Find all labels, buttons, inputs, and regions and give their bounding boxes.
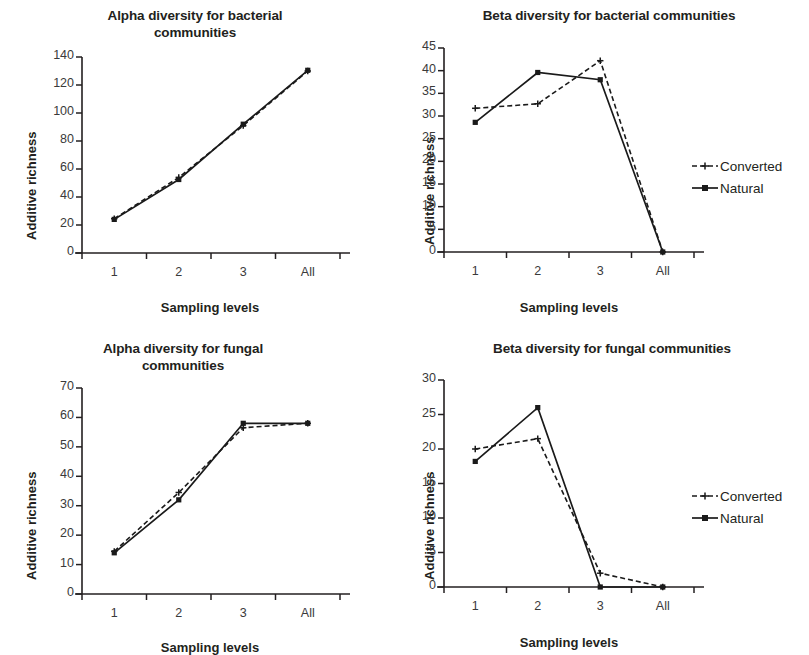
y-tick-label: 60	[22, 408, 74, 422]
data-point-marker-natural	[112, 217, 117, 222]
legend-beta-fungal: Converted Natural	[692, 485, 782, 529]
y-tick-label: 10	[384, 198, 436, 212]
y-tick-label: 25	[384, 130, 436, 144]
data-point-marker-natural	[535, 405, 540, 410]
legend-item-natural: Natural	[692, 177, 782, 199]
y-tick-label: 60	[22, 160, 74, 174]
y-tick-label: 20	[22, 216, 74, 230]
x-tick-label: 3	[213, 606, 273, 620]
chart-panel-beta-fungal: Beta diversity for fungal communities Ad…	[404, 330, 809, 651]
x-tick-label: 3	[213, 265, 273, 279]
x-tick-label: 2	[149, 606, 209, 620]
y-tick-label: 50	[22, 438, 74, 452]
x-tick-label: 1	[445, 264, 505, 278]
y-tick-label: 40	[22, 188, 74, 202]
y-tick-label: 35	[384, 84, 436, 98]
legend-swatch-natural-icon	[692, 182, 718, 194]
y-tick-label: 20	[384, 440, 436, 454]
y-tick-label: 5	[384, 220, 436, 234]
data-point-marker-converted	[472, 446, 478, 452]
y-tick-label: 20	[22, 526, 74, 540]
y-tick-label: 0	[384, 243, 436, 257]
data-point-marker-natural	[176, 177, 181, 182]
x-tick-label: 1	[84, 265, 144, 279]
y-tick-label: 30	[22, 497, 74, 511]
y-tick-label: 100	[22, 104, 74, 118]
data-point-marker-natural	[660, 249, 665, 254]
legend-swatch-converted-icon	[692, 160, 718, 172]
legend-beta-bacterial: Converted Natural	[692, 155, 782, 199]
y-tick-label: 5	[384, 544, 436, 558]
y-tick-label: 30	[384, 107, 436, 121]
data-point-marker-natural	[598, 77, 603, 82]
x-tick-label: 2	[508, 599, 568, 613]
y-tick-label: 0	[22, 244, 74, 258]
series-line-converted	[475, 61, 663, 252]
y-tick-label: 25	[384, 406, 436, 420]
series-line-converted	[475, 439, 663, 587]
y-tick-label: 15	[384, 475, 436, 489]
data-point-marker-natural	[473, 120, 478, 125]
data-point-marker-natural	[112, 550, 117, 555]
y-tick-label: 15	[384, 175, 436, 189]
y-tick-label: 20	[384, 152, 436, 166]
x-tick-label: All	[633, 599, 693, 613]
legend-swatch-converted-icon	[692, 490, 718, 502]
x-tick-label: All	[278, 606, 338, 620]
series-line-natural	[114, 70, 307, 219]
data-point-marker-converted	[597, 57, 603, 63]
legend-swatch-natural-icon	[692, 512, 718, 524]
y-tick-label: 140	[22, 48, 74, 62]
y-tick-label: 40	[22, 467, 74, 481]
data-point-marker-natural	[241, 421, 246, 426]
legend-label-natural: Natural	[720, 181, 764, 196]
x-tick-label: All	[278, 265, 338, 279]
chart-panel-alpha-fungal: Alpha diversity for fungal communities A…	[0, 330, 404, 651]
legend-item-converted: Converted	[692, 155, 782, 177]
data-point-marker-natural	[241, 122, 246, 127]
data-point-marker-natural	[176, 497, 181, 502]
data-point-marker-converted	[472, 105, 478, 111]
x-tick-label: 3	[570, 264, 630, 278]
series-line-natural	[475, 73, 663, 253]
y-tick-label: 0	[384, 578, 436, 592]
y-tick-label: 10	[22, 556, 74, 570]
y-tick-label: 80	[22, 132, 74, 146]
legend-item-natural: Natural	[692, 507, 782, 529]
x-tick-label: 3	[570, 599, 630, 613]
data-point-marker-converted	[597, 570, 603, 576]
legend-item-converted: Converted	[692, 485, 782, 507]
y-tick-label: 120	[22, 76, 74, 90]
y-tick-label: 70	[22, 379, 74, 393]
data-point-marker-converted	[535, 435, 541, 441]
data-point-marker-natural	[305, 421, 310, 426]
series-line-converted	[114, 71, 307, 219]
x-tick-label: 2	[149, 265, 209, 279]
x-tick-label: All	[633, 264, 693, 278]
series-line-natural	[475, 408, 663, 587]
x-tick-label: 1	[445, 599, 505, 613]
legend-label-converted: Converted	[720, 159, 782, 174]
series-line-natural	[114, 423, 307, 553]
data-point-marker-natural	[598, 584, 603, 589]
data-point-marker-natural	[305, 68, 310, 73]
x-tick-label: 2	[508, 264, 568, 278]
x-tick-label: 1	[84, 606, 144, 620]
series-line-converted	[114, 423, 307, 551]
y-tick-label: 30	[384, 371, 436, 385]
y-tick-label: 40	[384, 62, 436, 76]
legend-label-converted: Converted	[720, 489, 782, 504]
data-point-marker-natural	[660, 584, 665, 589]
y-tick-label: 45	[384, 39, 436, 53]
y-tick-label: 10	[384, 509, 436, 523]
chart-panel-alpha-bacterial: Alpha diversity for bacterial communitie…	[0, 0, 404, 330]
data-point-marker-natural	[473, 459, 478, 464]
y-tick-label: 0	[22, 585, 74, 599]
chart-panel-beta-bacterial: Beta diversity for bacterial communities…	[404, 0, 809, 330]
legend-label-natural: Natural	[720, 511, 764, 526]
data-point-marker-natural	[535, 70, 540, 75]
